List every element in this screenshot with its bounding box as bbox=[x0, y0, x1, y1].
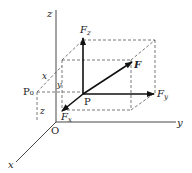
point-p-label: P bbox=[84, 96, 91, 107]
vector-f bbox=[83, 62, 132, 94]
vector-fz-label: Fz bbox=[79, 24, 91, 37]
dashed-box bbox=[37, 40, 155, 122]
force-diagram: z y x O P P₀ F Fz Fy Fx x y z bbox=[0, 0, 192, 173]
coord-z-label: z bbox=[39, 106, 45, 116]
coord-y-label: y bbox=[56, 80, 62, 89]
x-axis bbox=[16, 122, 56, 162]
x-axis-label: x bbox=[8, 159, 14, 170]
origin-label: O bbox=[51, 125, 59, 136]
z-axis-label: z bbox=[46, 8, 53, 19]
point-p0-label: P₀ bbox=[23, 86, 34, 97]
labels: z y x O P P₀ F Fz Fy Fx x y z bbox=[8, 8, 183, 170]
coord-x-label: x bbox=[42, 71, 47, 81]
vector-fy-label: Fy bbox=[156, 88, 169, 101]
vector-f-label: F bbox=[133, 59, 142, 70]
y-axis-label: y bbox=[176, 117, 183, 128]
vector-fx bbox=[62, 94, 83, 111]
force-vectors bbox=[62, 38, 154, 111]
